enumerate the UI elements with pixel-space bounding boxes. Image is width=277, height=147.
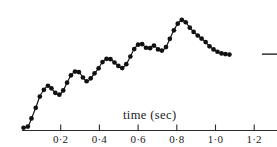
data-point (167, 36, 172, 41)
x-axis-tick-label: 0·8 (169, 133, 184, 145)
data-point (124, 62, 129, 67)
data-point (88, 76, 93, 81)
data-point (136, 42, 141, 47)
x-axis-tick-label: 0·2 (53, 133, 68, 145)
data-point (69, 73, 74, 78)
data-point (112, 60, 117, 65)
x-axis (22, 125, 277, 131)
data-point (199, 36, 204, 41)
x-axis-tick-label: 1·2 (247, 133, 262, 145)
data-point (57, 92, 62, 97)
data-point (33, 105, 38, 110)
chart-plot-area (0, 0, 277, 147)
x-axis-tick-label: 1·0 (208, 133, 223, 145)
data-point (29, 116, 34, 121)
data-point (160, 48, 165, 53)
data-point (164, 45, 169, 50)
data-point (140, 42, 145, 47)
data-point (187, 25, 192, 30)
data-point (215, 49, 220, 54)
data-point (148, 46, 153, 51)
data-point (100, 60, 105, 65)
data-point (37, 94, 42, 99)
data-point (108, 57, 113, 62)
data-point (81, 75, 86, 80)
chart-figure: time (sec) 0·20·40·60·81·01·2 (0, 0, 277, 147)
data-point (92, 71, 97, 76)
data-point (25, 124, 30, 129)
x-axis-title: time (sec) (123, 108, 177, 123)
data-point (77, 70, 82, 75)
x-axis-tick-label: 0·4 (92, 133, 107, 145)
data-point (183, 20, 188, 25)
data-point (84, 79, 89, 84)
data-point (175, 21, 180, 26)
data-point (172, 28, 177, 33)
data-point (203, 40, 208, 45)
data-point (207, 44, 212, 49)
data-point (191, 30, 196, 35)
data-point (21, 125, 26, 130)
data-point (120, 66, 125, 71)
data-point (227, 52, 232, 57)
data-point (42, 88, 47, 93)
data-point (152, 43, 157, 48)
x-axis-ticks (61, 125, 255, 131)
data-point (96, 66, 101, 71)
x-axis-tick-label: 0·6 (130, 133, 145, 145)
data-point (223, 52, 228, 57)
data-point (53, 90, 58, 95)
data-point (195, 33, 200, 38)
data-point (132, 47, 137, 52)
data-point (49, 86, 54, 91)
data-point (61, 88, 66, 93)
data-point (65, 80, 70, 85)
data-point (144, 45, 149, 50)
data-point (128, 54, 133, 59)
